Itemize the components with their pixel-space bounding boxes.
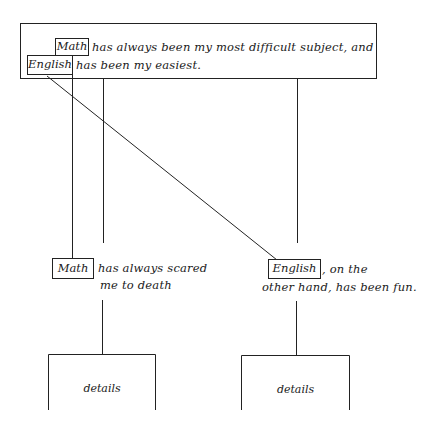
details-label-left: details — [48, 382, 156, 395]
branch-math-line1: has always scared — [98, 263, 207, 275]
branch-math-keyword: Math — [58, 263, 89, 275]
thesis-line1-text: has always been my most difficult subjec… — [92, 42, 373, 54]
connector-english-diagonal — [47, 76, 277, 260]
branch-english-line2: other hand, has been fun. — [262, 282, 417, 294]
branch-english-line1: , on the — [322, 264, 368, 276]
thesis-math-keyword: Math — [57, 41, 88, 53]
branch-math-keyword-box: Math — [52, 258, 94, 279]
thesis-english-keyword-box: English — [27, 55, 73, 75]
branch-english-keyword-box: English — [268, 259, 321, 279]
thesis-english-keyword: English — [28, 59, 72, 71]
branch-english-keyword: English — [273, 263, 317, 275]
branch-math-line2: me to death — [100, 280, 172, 292]
outline-diagram: Math has always been my most difficult s… — [0, 0, 436, 438]
thesis-line2-text: has been my easiest. — [76, 60, 201, 72]
details-label-right: details — [241, 383, 350, 396]
thesis-math-keyword-box: Math — [55, 38, 89, 56]
